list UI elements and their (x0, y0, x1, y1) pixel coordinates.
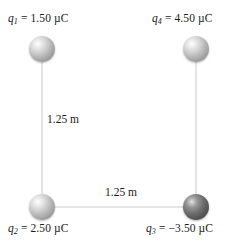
charge-value-q3: −3.50 µC (169, 222, 214, 234)
charge-equals-q2: = (18, 222, 31, 234)
charge-value-q4: 4.50 µC (175, 12, 213, 24)
charge-square-diagram: q1 = 1.50 µC q4 = 4.50 µC q2 = 2.50 µC q… (0, 0, 242, 250)
distance-label-left: 1.25 m (45, 113, 81, 125)
distance-label-bottom: 1.25 m (103, 186, 139, 198)
charge-label-q4: q4 = 4.50 µC (152, 12, 213, 26)
charge-label-q2: q2 = 2.50 µC (8, 222, 69, 236)
charge-value-q1: 1.50 µC (31, 12, 69, 24)
charge-sphere-q1 (29, 36, 55, 62)
charge-equals-q1: = (18, 12, 31, 24)
charge-value-q2: 2.50 µC (31, 222, 69, 234)
charge-equals-q3: = (156, 222, 169, 234)
charge-sphere-q2 (29, 194, 55, 220)
charge-sphere-q4 (183, 36, 209, 62)
charge-label-q1: q1 = 1.50 µC (8, 12, 69, 26)
charge-sphere-q3 (183, 194, 209, 220)
charge-label-q3: q3 = −3.50 µC (146, 222, 213, 236)
charge-equals-q4: = (162, 12, 175, 24)
